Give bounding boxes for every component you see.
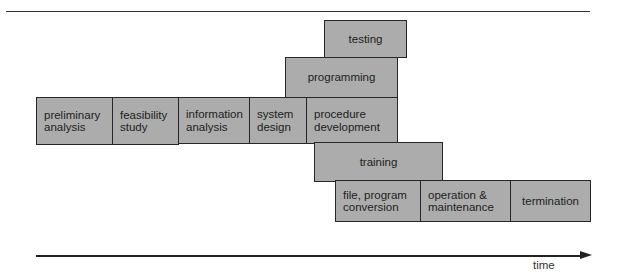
phase-label: training bbox=[360, 156, 398, 169]
phase-label: feasibility study bbox=[120, 109, 167, 134]
phase-label: file, program conversion bbox=[343, 189, 407, 214]
phase-label: preliminary analysis bbox=[44, 109, 100, 134]
time-axis-label: time bbox=[533, 259, 555, 271]
phase-procedure-development: procedure development bbox=[306, 97, 398, 144]
phase-operation-maintenance: operation & maintenance bbox=[420, 180, 511, 222]
phase-information-analysis: information analysis bbox=[178, 97, 250, 144]
top-rule bbox=[6, 11, 590, 12]
phase-label: information analysis bbox=[186, 108, 243, 133]
phase-file-program-conversion: file, program conversion bbox=[335, 180, 421, 222]
phase-preliminary-analysis: preliminary analysis bbox=[36, 97, 113, 145]
phase-label: system design bbox=[257, 108, 293, 133]
phase-label: operation & maintenance bbox=[428, 189, 494, 214]
phase-label: testing bbox=[349, 33, 383, 46]
phase-label: termination bbox=[522, 195, 579, 208]
phase-label: procedure development bbox=[314, 108, 380, 133]
phase-label: programming bbox=[308, 71, 376, 84]
phase-training: training bbox=[314, 142, 443, 182]
phase-programming: programming bbox=[285, 57, 398, 98]
phase-testing: testing bbox=[324, 20, 407, 58]
time-axis bbox=[36, 255, 582, 257]
phase-feasibility-study: feasibility study bbox=[112, 97, 179, 145]
phase-termination: termination bbox=[510, 180, 591, 222]
arrow-right-icon bbox=[580, 251, 592, 259]
phase-system-design: system design bbox=[249, 97, 307, 144]
